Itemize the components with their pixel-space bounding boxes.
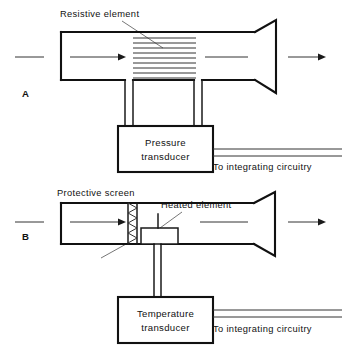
protective-screen-leader-line [101,243,128,258]
output-label-b: To integrating circuitry [213,324,312,334]
output-wires-b [213,310,342,317]
heated-element-leader-line [160,212,182,228]
pressure-transducer-line2: transducer [141,151,190,162]
protective-screen [128,203,137,244]
resistive-element-label: Resistive element [60,9,139,19]
resistive-element-grid [133,38,196,78]
protective-screen-label: Protective screen [57,188,135,198]
venturi-flowmeter-diagram: A Resistive element [0,0,354,349]
temperature-sensor-stem [154,244,161,297]
flow-arrow-b-inlet [70,218,126,225]
panel-a: A Resistive element [15,9,342,172]
temperature-transducer-line1: Temperature [137,308,194,319]
resistive-element-leader-line [122,21,163,48]
temperature-transducer-box [118,297,213,343]
flow-arrow-b-outlet [288,218,326,225]
heated-element-label: Heated element [161,200,232,210]
tube-a-exit-cone [255,20,276,93]
pressure-tap-upstream [125,80,133,126]
figure-root: A Resistive element [0,0,354,349]
pressure-transducer-box [118,126,213,172]
tube-b-exit-cone [254,192,275,256]
panel-a-letter: A [22,88,29,99]
output-wires-a [213,149,342,156]
flow-arrow-a-inlet [70,53,126,60]
temperature-transducer-line2: transducer [141,322,190,333]
panel-b-letter: B [22,231,29,242]
pressure-tap-downstream [194,80,202,126]
panel-b: B Protective screen Heated element [15,188,342,343]
pressure-transducer-line1: Pressure [145,137,186,148]
flow-arrow-a-outlet [288,53,326,60]
output-label-a: To integrating circuitry [213,162,312,172]
